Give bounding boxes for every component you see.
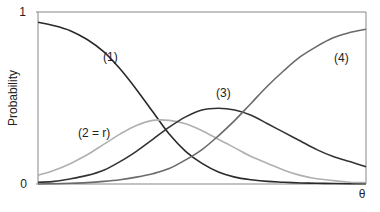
curve-label-3: (3) (216, 86, 231, 100)
probability-chart: 1 0 θ Probability (1) (2 = r) (3) (4) (0, 0, 380, 212)
series-group (38, 22, 366, 184)
y-tick-1: 1 (19, 5, 26, 19)
series-line-4 (38, 29, 366, 184)
y-tick-0: 0 (20, 177, 27, 191)
y-axis-label: Probability (6, 70, 20, 126)
curve-label-1: (1) (103, 50, 118, 64)
series-line-3 (38, 108, 366, 182)
x-axis-label: θ (359, 187, 366, 201)
curve-label-4: (4) (334, 51, 349, 65)
curve-label-2: (2 = r) (78, 126, 110, 140)
